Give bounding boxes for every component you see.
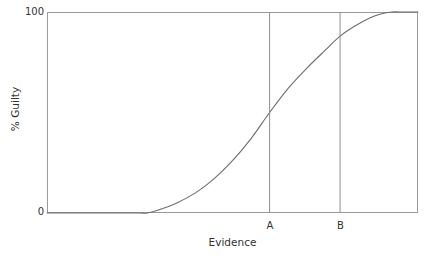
y-axis-title: % Guilty [9,69,21,149]
x-tick-label-a: A [267,221,274,231]
y-tick-label-0: 0 [38,207,44,217]
x-tick-label-b: B [337,221,344,231]
x-axis-title: Evidence [47,236,418,248]
y-tick-label-100: 100 [25,7,44,17]
plot-area [47,12,418,213]
chart-figure: 100 0 A B Evidence % Guilty [0,0,430,259]
